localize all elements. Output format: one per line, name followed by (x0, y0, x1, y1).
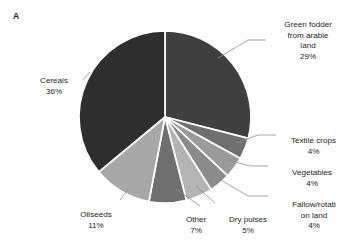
slice-label-cereals-percent: 36% (24, 87, 84, 97)
slice-label-dry-pulses-name: Dry pulses (229, 215, 267, 224)
slice-label-other: Other 7% (176, 205, 216, 247)
slice-label-oilseeds-percent: 11% (62, 221, 130, 231)
slice-label-fallow-rotation-land-name: Fallow/rotati on land (292, 200, 336, 219)
figure-panel: A Green fodder from arable land 29% Cere… (0, 0, 351, 248)
slice-label-other-name: Other (186, 215, 206, 224)
slice-label-fallow-rotation-land-percent: 4% (278, 221, 350, 231)
slice-label-other-percent: 7% (176, 226, 216, 236)
slice-label-green-fodder-percent: 29% (268, 52, 348, 62)
slice-label-vegetables-percent: 4% (276, 179, 348, 189)
slice-label-oilseeds: Oilseeds 11% (62, 200, 130, 242)
slice-label-oilseeds-name: Oilseeds (80, 210, 112, 219)
slice-label-cereals: Cereals 36% (24, 66, 84, 108)
pie-slice-group (79, 31, 251, 203)
slice-label-green-fodder: Green fodder from arable land 29% (268, 10, 348, 72)
slice-label-fallow-rotation-land: Fallow/rotati on land 4% (278, 190, 350, 242)
slice-label-vegetables-name: Vegetables (292, 168, 332, 177)
slice-label-cereals-name: Cereals (40, 76, 68, 85)
slice-label-green-fodder-name: Green fodder from arable land (284, 20, 332, 50)
slice-label-textile-crops-percent: 4% (278, 147, 349, 157)
slice-label-dry-pulses-percent: 5% (222, 226, 274, 236)
slice-label-dry-pulses: Dry pulses 5% (222, 205, 274, 247)
slice-label-textile-crops-name: Textile crops (291, 136, 336, 145)
